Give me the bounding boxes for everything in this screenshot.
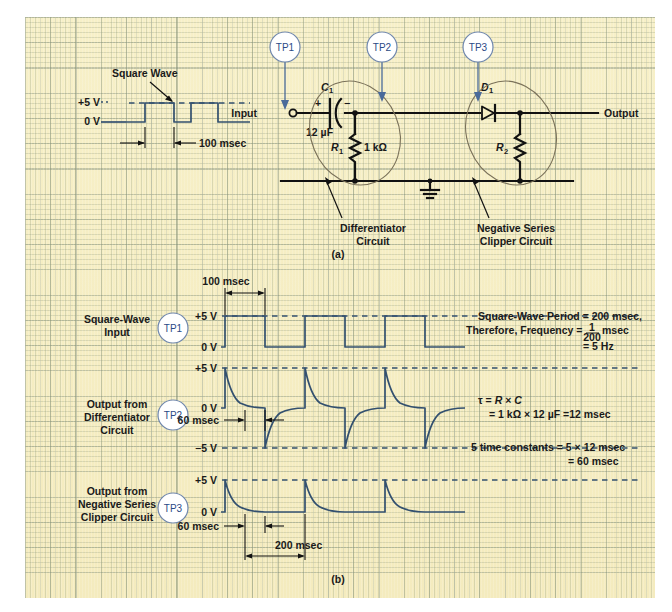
row-tp3-level-high: +5 V — [195, 474, 217, 486]
row-tp3-level-low: 0 V — [201, 506, 217, 518]
calc-period-line2-prefix: Therefore, Frequency = — [466, 324, 582, 336]
row-tp2-level-low: −5 V — [195, 442, 217, 454]
row-tp1-title-line1: Square-Wave — [84, 313, 150, 325]
calc-period-line3: = 5 Hz — [583, 340, 614, 352]
row-tp2-dimension: 60 msec — [178, 410, 284, 431]
row-tp1-level-low: 0 V — [201, 341, 217, 353]
svg-text:τ = R × C: τ = R × C — [478, 394, 522, 406]
row-tp2-level-high: +5 V — [195, 362, 217, 374]
row-tp3-waveform — [221, 480, 640, 512]
row-tp3-testpoint-badge[interactable]: TP3 — [158, 493, 188, 523]
row-tp2-dimension-label: 60 msec — [178, 414, 220, 426]
row-tp1-title-line2: Input — [104, 326, 130, 338]
panel-b-graphics: 100 msec Square-Wave Input TP1 +5 V 0 V … — [0, 0, 672, 612]
svg-text:TP1: TP1 — [164, 323, 183, 334]
calc-timeconstants-line1: 5 time constants = 5 × 12 msec — [471, 441, 625, 453]
calc-tau-times: × — [502, 394, 514, 406]
panel-b-top-dimension-label: 100 msec — [202, 275, 249, 287]
row-tp1-level-high: +5 V — [195, 310, 217, 322]
svg-text:TP3: TP3 — [164, 503, 183, 514]
panel-b-caption: (b) — [331, 573, 344, 585]
row-tp3-title-line2: Negative Series — [78, 498, 156, 510]
row-tp2-title-line1: Output from — [87, 398, 148, 410]
figure-root: +5 V 0 V Square Wave 100 msec Input Outp… — [0, 0, 672, 612]
calc-tau-c: C — [514, 394, 522, 406]
row-tp2-level-mid: 0 V — [201, 402, 217, 414]
row-tp1-testpoint-badge[interactable]: TP1 — [158, 313, 188, 343]
panel-b-top-dimension: 100 msec — [202, 275, 265, 315]
calc-timeconstants-line2: = 60 msec — [568, 455, 619, 467]
row-tp3-title-line1: Output from — [87, 485, 148, 497]
row-tp3-dimensions: 60 msec 200 msec — [178, 514, 323, 560]
calc-tau-equals: = — [483, 394, 495, 406]
row-tp2-title-line3: Circuit — [100, 424, 134, 436]
row-tp3-period-label: 200 msec — [275, 539, 322, 551]
calc-period-line1: Square-Wave Period = 200 msec, — [478, 310, 642, 322]
row-tp3-title-line3: Clipper Circuit — [81, 511, 154, 523]
calc-tau-line2: = 1 kΩ × 12 µF =12 msec — [489, 408, 611, 420]
row-tp3-dimension-label: 60 msec — [178, 520, 220, 532]
row-tp2-title-line2: Differentiator — [84, 411, 150, 423]
calc-tau-line1: τ = R × C — [478, 394, 522, 406]
calc-period-line2-suffix: msec — [602, 324, 629, 336]
